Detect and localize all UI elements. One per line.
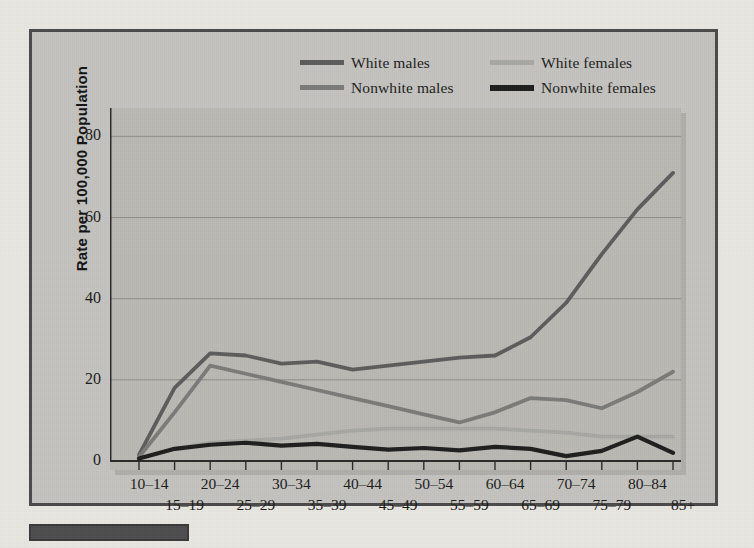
x-tick-label-top: 40–44 <box>332 475 394 493</box>
x-tick-label-bottom: 45–49 <box>367 496 429 514</box>
legend-swatch-nonwhite-males <box>300 85 344 90</box>
page-footer-bar <box>29 524 189 541</box>
x-tick-label-top: 80–84 <box>616 475 678 493</box>
x-tick-label-bottom: 15–19 <box>154 496 216 514</box>
legend-swatch-white-males <box>300 60 344 65</box>
legend-swatch-white-females <box>490 60 534 65</box>
series-line-white-males <box>139 173 673 455</box>
x-tick-label-top: 20–24 <box>189 475 251 493</box>
x-tick-label-bottom: 75–79 <box>581 496 643 514</box>
legend-entry-nonwhite-females: Nonwhite females <box>490 79 690 97</box>
y-tick-label: 40 <box>67 289 101 307</box>
y-tick-label: 80 <box>67 126 101 144</box>
x-tick-label-bottom: 25–29 <box>225 496 287 514</box>
x-tick-label-top: 10–14 <box>118 475 180 493</box>
x-tick-label-bottom: 35–39 <box>296 496 358 514</box>
legend-label-white-males: White males <box>351 54 430 72</box>
legend-swatch-nonwhite-females <box>490 85 534 91</box>
figure-frame: White males White females Nonwhite males… <box>29 29 718 506</box>
y-tick-label: 0 <box>67 451 101 469</box>
legend-label-nonwhite-males: Nonwhite males <box>351 79 454 97</box>
y-axis-title: Rate per 100,000 Population <box>73 54 90 284</box>
x-tick-label-top: 30–34 <box>260 475 322 493</box>
plot-area <box>110 108 681 470</box>
y-tick-label: 20 <box>67 370 101 388</box>
legend-label-nonwhite-females: Nonwhite females <box>541 79 656 97</box>
chart-lines-svg <box>110 108 681 470</box>
chart-legend: White males White females Nonwhite males… <box>300 50 700 100</box>
chart-figure: White males White females Nonwhite males… <box>32 32 721 509</box>
legend-label-white-females: White females <box>541 54 632 72</box>
x-tick-label-top: 60–64 <box>474 475 536 493</box>
x-tick-label-bottom: 85+ <box>652 496 714 514</box>
x-tick-label-top: 50–54 <box>403 475 465 493</box>
legend-entry-nonwhite-males: Nonwhite males <box>300 79 490 97</box>
legend-entry-white-males: White males <box>300 54 490 72</box>
x-tick-label-bottom: 55–59 <box>438 496 500 514</box>
x-tick-label-top: 70–74 <box>545 475 607 493</box>
x-tick-label-bottom: 65–69 <box>510 496 572 514</box>
legend-entry-white-females: White females <box>490 54 690 72</box>
series-line-nonwhite-females <box>139 437 673 459</box>
y-tick-label: 60 <box>67 208 101 226</box>
